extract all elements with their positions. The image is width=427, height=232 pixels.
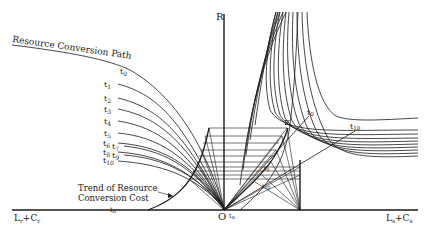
svg-text:t4: t4 (104, 117, 111, 127)
left-tn-label: tn (110, 206, 117, 214)
origin-label: O (218, 211, 226, 222)
origin-tn-label: tn (229, 212, 236, 220)
svg-text:t3: t3 (104, 105, 111, 115)
r-axis-label: R (216, 11, 224, 22)
svg-text:t5: t5 (104, 129, 111, 139)
svg-text:t2: t2 (104, 94, 111, 104)
right-curve-family (240, 12, 418, 210)
trend-label-line2: Conversion Cost (78, 193, 149, 203)
resource-conversion-diagram: R (0, 0, 427, 232)
left-time-labels: t0 t1 t2 t3 t4 t5 t6 t7 t8 t9 t10 (103, 67, 127, 166)
right-axis-label: Ls+Cs (386, 213, 413, 224)
trend-label-line1: Trend of Resource (78, 183, 158, 193)
svg-text:t1: t1 (104, 80, 111, 90)
right-t0-label: t0 (307, 108, 314, 117)
left-axis-label: Lr+Cr (14, 213, 40, 224)
expansion-path-t0 (224, 116, 309, 210)
point-e-label: E (284, 118, 290, 127)
right-t10-label: t10 (350, 122, 361, 131)
